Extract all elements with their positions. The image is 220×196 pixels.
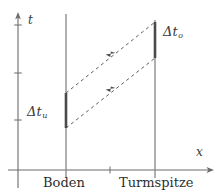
light-signal-lower [66,58,155,128]
space-axis-label: x [196,146,203,158]
light-signal-upper-arrowhead [106,52,116,58]
worldline-label-boden: Boden [43,176,85,189]
space-axis [8,167,214,174]
spacetime-diagram: t x Δtu Δto Boden Turmspitze [0,0,220,196]
delta-t-u-subscript: u [42,111,48,120]
diagram-canvas [0,0,220,196]
light-signal-upper-line [66,22,155,93]
delta-t-o-subscript: o [178,31,183,40]
time-axis [14,12,22,188]
delta-t-u-label: Δtu [27,105,47,120]
light-signal-upper [66,22,155,93]
light-signal-lower-line [66,58,155,128]
delta-t-o-label: Δto [163,25,183,40]
worldline-label-turmspitze: Turmspitze [119,176,194,189]
light-signal-lower-arrowhead [106,87,116,93]
delta-t-o-symbol: Δt [163,24,178,39]
delta-t-u-symbol: Δt [27,104,42,119]
time-axis-label: t [28,14,33,26]
